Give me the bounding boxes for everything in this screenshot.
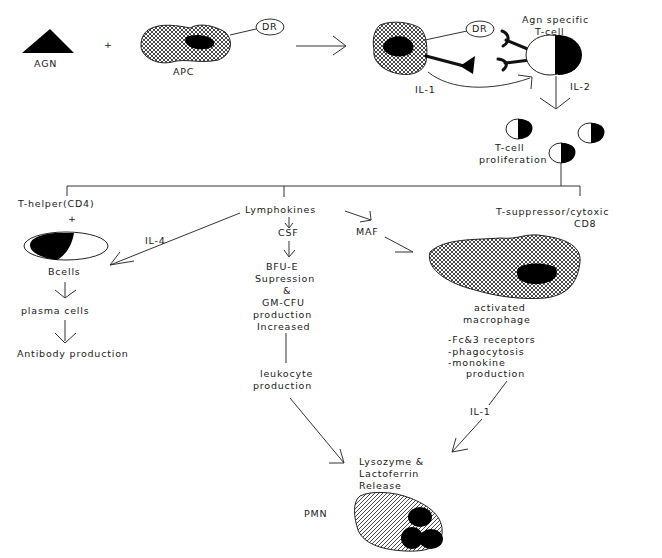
leukocyte-label-1: leukocyte — [260, 368, 313, 379]
t-helper-label: T-helper(CD4) — [17, 198, 94, 209]
pmn-label: PMN — [304, 508, 327, 519]
presenting-apc-icon — [373, 22, 427, 74]
presented-antigen-icon — [460, 56, 475, 74]
bfu-label-6: Increased — [257, 321, 310, 332]
bcells-label: Bcells — [48, 266, 81, 277]
apc-label: APC — [173, 66, 194, 77]
activated-macrophage-icon — [429, 235, 580, 299]
bfu-label-5: production — [253, 309, 312, 320]
tcell-proliferation-label-2: proliferation — [479, 154, 547, 165]
il1-bottom-label: IL-1 — [470, 406, 491, 417]
bfu-label-1: BFU-E — [266, 261, 298, 272]
agn-label: AGN — [34, 58, 57, 69]
maf-label: MAF — [356, 226, 379, 237]
effect-production: production — [466, 368, 525, 379]
proliferating-tcell-icon-3 — [549, 143, 575, 163]
tcell-proliferation-label-1: T-cell — [494, 142, 525, 153]
plus-sign: + — [104, 39, 113, 50]
macrophage-label: macrophage — [463, 314, 531, 325]
immune-response-diagram: AGN + APC DR DR Agn specific T-cell IL-1… — [0, 0, 662, 558]
antigen-triangle-icon — [22, 29, 74, 53]
effect-phagocytosis: -phagocytosis — [448, 346, 524, 357]
leukocyte-label-2: production — [253, 380, 312, 391]
effect-fc-receptors: -Fc&3 receptors — [448, 334, 536, 345]
dr-label-2: DR — [472, 23, 488, 34]
apc-cell-icon — [141, 25, 231, 63]
bfu-label-3: & — [283, 285, 291, 296]
antibody-production-label: Antibody production — [17, 348, 129, 359]
pmn-cell-icon — [355, 492, 444, 551]
tcell-label: T-cell — [534, 26, 565, 37]
bfu-label-2: Supression — [255, 273, 315, 284]
effect-monokine: -monokine — [448, 357, 506, 368]
lysozyme-label-1: Lysozyme & — [359, 456, 424, 467]
lysozyme-label-3: Release — [359, 480, 402, 491]
lymphokines-label: Lymphokines — [245, 204, 316, 215]
plus-sign-2: + — [68, 213, 77, 224]
proliferating-tcell-icon-2 — [578, 123, 604, 143]
t-suppressor-label-1: T-suppressor/cytoxic — [495, 206, 609, 217]
agn-specific-label: Agn specific — [522, 14, 589, 25]
dr-label: DR — [262, 21, 278, 32]
agn-specific-tcell-icon — [526, 35, 582, 75]
il1-top-label: IL-1 — [415, 84, 436, 95]
proliferating-tcell-icon-1 — [506, 119, 532, 139]
csf-label: CSF — [278, 227, 299, 238]
il2-label: IL-2 — [570, 81, 591, 92]
il4-label: IL-4 — [145, 235, 166, 246]
activated-label: activated — [474, 302, 526, 313]
lysozyme-label-2: Lactoferrin — [359, 468, 419, 479]
plasma-cells-label: plasma cells — [21, 305, 89, 316]
bfu-label-4: GM-CFU — [262, 297, 305, 308]
t-suppressor-label-2: CD8 — [574, 218, 596, 229]
bcell-icon — [24, 232, 108, 260]
